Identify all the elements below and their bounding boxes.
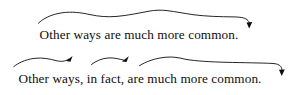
line-1-contour-group: [39, 10, 253, 28]
utterance-line-1: Other ways are much more common.: [0, 27, 292, 43]
line-2-arrow-b-icon: [122, 56, 129, 62]
line-2-arrow-a-icon: [66, 56, 73, 62]
line-2-contour-b-path: [92, 58, 125, 65]
line-1-contour-path: [39, 10, 250, 23]
utterance-line-2: Other ways, in fact, are much more commo…: [0, 71, 292, 87]
line-2-contour-a-path: [14, 58, 69, 67]
line-2-contour-c-path: [140, 57, 282, 71]
intonation-contour-figure: Other ways are much more common. Other w…: [0, 0, 292, 95]
